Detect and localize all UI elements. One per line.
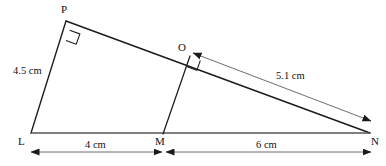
geometry-canvas	[0, 0, 386, 166]
vertex-label-N: N	[371, 136, 379, 147]
vertex-label-P: P	[61, 4, 67, 15]
right-angle-marker-P-closing	[66, 41, 76, 45]
dimension-arrow-ON	[193, 53, 371, 121]
geometry-figure: L M N P O 4.5 cm 5.1 cm 4 cm 6 cm	[0, 0, 386, 166]
measurement-label-LM: 4 cm	[85, 140, 106, 151]
segment-MO	[163, 56, 190, 134]
measurement-label-LP: 4.5 cm	[13, 66, 42, 77]
measurement-label-ON: 5.1 cm	[276, 71, 305, 82]
vertex-label-M: M	[155, 136, 165, 147]
measurement-label-MN: 6 cm	[256, 140, 277, 151]
vertex-label-O: O	[178, 42, 186, 53]
vertex-label-L: L	[18, 136, 25, 147]
segment-LP	[31, 21, 66, 133]
right-angle-marker-O	[187, 60, 201, 70]
segment-PN	[66, 21, 370, 133]
